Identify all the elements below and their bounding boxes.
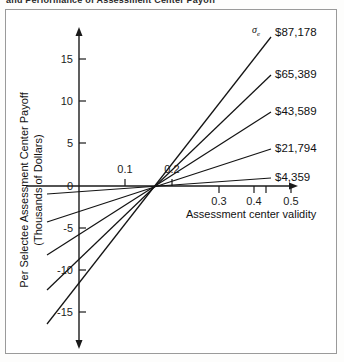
x-tick-label-0-1: 0.1 bbox=[117, 163, 132, 175]
figure-root: and Performance of Assessment Center Pay… bbox=[0, 0, 344, 362]
y-tick-label-neg10: -10 bbox=[57, 264, 73, 276]
x-tick-label-0-4: 0.4 bbox=[246, 195, 261, 207]
x-tick-marks-extra bbox=[254, 186, 291, 193]
data-series-group bbox=[47, 37, 271, 324]
x-axis-title: Assessment center validity bbox=[186, 208, 317, 220]
data-line-65389 bbox=[47, 75, 271, 290]
sigma-e-symbol: σe bbox=[252, 24, 260, 38]
chart-svg: 15 10 5 0 -5 -10 -15 0.1 0.2 0. bbox=[6, 10, 336, 353]
y-tick-label-15: 15 bbox=[61, 53, 73, 65]
x-tick-labels-above: 0.1 0.2 bbox=[117, 163, 179, 175]
page-header-strip: and Performance of Assessment Center Pay… bbox=[0, 0, 344, 7]
y-tick-label-neg5: -5 bbox=[63, 222, 73, 234]
series-label-43589: $43,589 bbox=[275, 105, 317, 117]
y-axis-title-line2: (Thousands of Dollars) bbox=[32, 134, 44, 245]
y-axis-arrow-down bbox=[76, 340, 83, 349]
chart-frame: 15 10 5 0 -5 -10 -15 0.1 0.2 0. bbox=[5, 9, 337, 354]
x-tick-labels-below: 0.3 0.4 0.5 bbox=[211, 195, 298, 207]
sigma-subscript-glyph: e bbox=[257, 30, 260, 38]
y-axis-title-line1: Per Selectee Assessment Center Payoff bbox=[18, 91, 30, 287]
y-axis-arrow-up bbox=[76, 27, 83, 36]
series-label-65389: $65,389 bbox=[275, 68, 317, 80]
y-axis bbox=[76, 27, 83, 349]
series-label-21794: $21,794 bbox=[275, 142, 317, 154]
svg-text:σe: σe bbox=[252, 24, 260, 38]
page-header-text: and Performance of Assessment Center Pay… bbox=[6, 0, 215, 5]
data-line-43589 bbox=[47, 112, 271, 255]
y-axis-title-group: Per Selectee Assessment Center Payoff (T… bbox=[18, 91, 44, 287]
series-label-4359: $4,359 bbox=[275, 171, 310, 183]
series-labels: $87,178 $65,389 $43,589 $21,794 $4,359 bbox=[275, 26, 317, 183]
x-axis-arrow-right bbox=[289, 183, 298, 190]
y-tick-label-0: 0 bbox=[67, 180, 73, 192]
x-tick-label-0-5: 0.5 bbox=[283, 195, 298, 207]
series-label-87178: $87,178 bbox=[275, 26, 317, 38]
x-tick-label-0-3: 0.3 bbox=[211, 195, 226, 207]
y-tick-label-5: 5 bbox=[67, 137, 73, 149]
y-tick-label-10: 10 bbox=[61, 95, 73, 107]
